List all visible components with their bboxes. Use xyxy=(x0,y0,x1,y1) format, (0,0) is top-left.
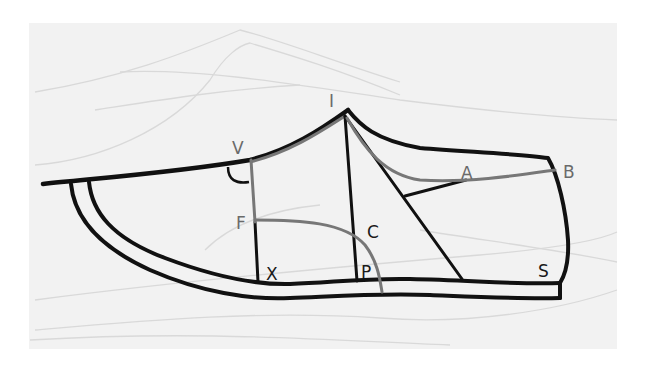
pattern-canvas: I V A B F C X P S xyxy=(0,0,646,366)
label-c: C xyxy=(367,222,379,242)
shoe-pattern-diagram: I V A B F C X P S xyxy=(0,0,646,366)
label-v: V xyxy=(232,138,244,158)
label-f: F xyxy=(236,213,246,233)
label-x: X xyxy=(266,264,278,284)
label-b: B xyxy=(563,162,575,182)
label-a: A xyxy=(461,163,473,183)
label-p: P xyxy=(361,262,371,282)
label-i: I xyxy=(329,91,334,111)
label-s: S xyxy=(538,261,549,281)
